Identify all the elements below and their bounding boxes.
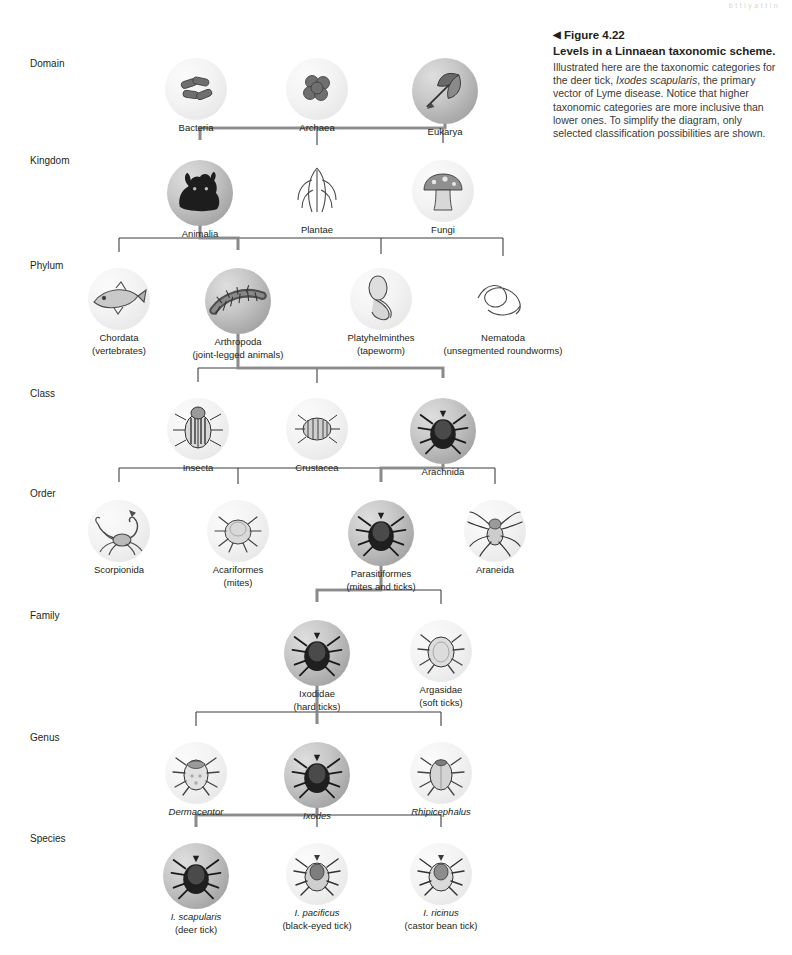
taxon-label: I. pacificus [252, 907, 382, 918]
taxon-node-eukarya: Eukarya [380, 58, 510, 137]
scorpion-icon [88, 500, 150, 562]
taxon-sublabel: (unsegmented roundworms) [438, 345, 568, 356]
taxon-label: Chordata [54, 332, 184, 343]
taxon-illustration [207, 500, 269, 562]
taxon-label: Plantae [252, 224, 382, 235]
taxon-illustration [167, 160, 233, 226]
taxon-label: Bacteria [131, 122, 261, 133]
taxon-label: Parasitiformes [316, 568, 446, 579]
page-scan-artifact-top: b t t i y a t t i n [729, 2, 778, 9]
taxon-illustration [410, 620, 472, 682]
taxon-label: Ixodidae [252, 688, 382, 699]
taxon-node-archaea: Archaea [252, 58, 382, 133]
taxon-node-araneida: Araneida [430, 500, 560, 575]
taxon-node-i-ricinus: I. ricinus(castor bean tick) [376, 843, 506, 931]
taxon-node-argasidae: Argasidae(soft ticks) [376, 620, 506, 708]
taxon-node-insecta: Insecta [133, 398, 263, 473]
taxon-illustration [472, 268, 534, 330]
centipede-icon [205, 268, 271, 334]
taxon-node-nematoda: Nematoda(unsegmented roundworms) [438, 268, 568, 356]
taxon-label: Rhipicephalus [376, 806, 506, 817]
roundworm-icon [472, 268, 534, 330]
taxon-node-arachnida: Arachnida [378, 398, 508, 477]
taxon-node-parasitiformes: Parasitiformes(mites and ticks) [316, 500, 446, 592]
taxon-node-bacteria: Bacteria [131, 58, 261, 133]
taxon-illustration [88, 500, 150, 562]
rhipicephalus-icon [410, 742, 472, 804]
beetle-icon [167, 398, 229, 460]
taxon-label: Platyhelminthes [316, 332, 446, 343]
rank-label-genus: Genus [30, 732, 59, 743]
taxon-sublabel: (joint-legged animals) [173, 349, 303, 360]
taxon-label: Insecta [133, 462, 263, 473]
taxon-illustration [286, 58, 348, 120]
rank-label-order: Order [30, 488, 56, 499]
rank-label-kingdom: Kingdom [30, 155, 69, 166]
taxon-node-arthropoda: Arthropoda(joint-legged animals) [173, 268, 303, 360]
figure-number-line: ◀Figure 4.22 [553, 28, 781, 43]
rank-label-family: Family [30, 610, 59, 621]
taxon-node-platyhelminthes: Platyhelminthes(tapeworm) [316, 268, 446, 356]
taxon-label: Acariformes [173, 564, 303, 575]
taxon-illustration [284, 742, 350, 808]
tick-icon [348, 500, 414, 566]
taxon-node-chordata: Chordata(vertebrates) [54, 268, 184, 356]
taxon-node-ixodes: Ixodes [252, 742, 382, 821]
taxon-node-i-pacificus: I. pacificus(black-eyed tick) [252, 843, 382, 931]
tick2-icon [286, 843, 348, 905]
taxon-label: Archaea [252, 122, 382, 133]
caption-species-italic: Ixodes scapularis [616, 74, 697, 86]
taxon-node-animalia: Animalia [135, 160, 265, 239]
rank-label-class: Class [30, 388, 55, 399]
taxon-illustration [412, 58, 478, 124]
taxon-illustration [165, 58, 227, 120]
taxon-illustration [205, 268, 271, 334]
taxon-sublabel: (mites) [173, 577, 303, 588]
dog-icon [167, 160, 233, 226]
taxon-illustration [464, 500, 526, 562]
figure-number: Figure 4.22 [564, 29, 625, 41]
tick-icon [284, 742, 350, 808]
rank-label-domain: Domain [30, 58, 64, 69]
taxon-node-dermacentor: Dermacentor [131, 742, 261, 817]
tick3-icon [410, 843, 472, 905]
taxon-label: Animalia [135, 228, 265, 239]
softtick-icon [410, 620, 472, 682]
bacteria-rods-icon [165, 58, 227, 120]
taxon-illustration [410, 843, 472, 905]
tick-icon [284, 620, 350, 686]
taxon-sublabel: (hard ticks) [252, 701, 382, 712]
taxon-illustration [348, 500, 414, 566]
archaea-cocci-icon [286, 58, 348, 120]
taxon-label: Arthropoda [173, 336, 303, 347]
taxon-node-fungi: Fungi [378, 160, 508, 235]
taxon-label: Nematoda [438, 332, 568, 343]
fish-icon [88, 268, 150, 330]
taxon-node-acariformes: Acariformes(mites) [173, 500, 303, 588]
taxon-label: I. ricinus [376, 907, 506, 918]
tick-icon [410, 398, 476, 464]
taxon-node-i-scapularis: I. scapularis(deer tick) [131, 843, 261, 935]
taxon-label: Fungi [378, 224, 508, 235]
isopod-icon [286, 398, 348, 460]
dermacentor-icon [165, 742, 227, 804]
taxon-illustration [163, 843, 229, 909]
taxon-node-ixodidae: Ixodidae(hard ticks) [252, 620, 382, 712]
figure-title: Levels in a Linnaean taxonomic scheme. [553, 44, 781, 58]
taxon-label: Scorpionida [54, 564, 184, 575]
taxon-sublabel: (mites and ticks) [316, 581, 446, 592]
page-scan-artifact-bottom [0, 933, 792, 949]
taxon-label: Argasidae [376, 684, 506, 695]
mite-icon [207, 500, 269, 562]
taxon-illustration [286, 160, 348, 222]
taxon-label: I. scapularis [131, 911, 261, 922]
taxon-label: Araneida [430, 564, 560, 575]
taxon-sublabel: (black-eyed tick) [252, 920, 382, 931]
taxon-illustration [350, 268, 412, 330]
taxon-illustration [284, 620, 350, 686]
left-triangle-icon: ◀ [553, 29, 561, 40]
tick-icon [163, 843, 229, 909]
taxon-illustration [410, 742, 472, 804]
taxon-sublabel: (vertebrates) [54, 345, 184, 356]
taxon-illustration [165, 742, 227, 804]
